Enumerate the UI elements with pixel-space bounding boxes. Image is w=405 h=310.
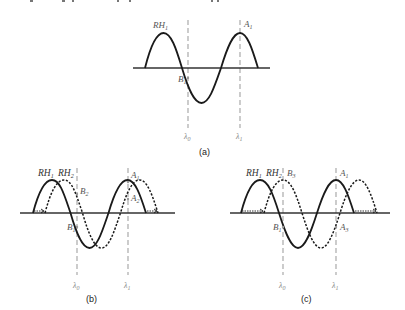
rh1-curve (241, 180, 354, 248)
figure-canvas: RH1 A1 B1 λ0 λ1 (a) RH1 RH2 B2 B1 A1 A2 (0, 0, 405, 310)
rh1-label: RH1 (152, 20, 168, 31)
rh2-label: RH2 (57, 168, 74, 179)
lambda0-label: λ0 (183, 132, 190, 142)
lambda0-label: λ0 (278, 281, 285, 291)
a3-label: A3 (339, 222, 349, 233)
a1-label: A1 (243, 19, 253, 30)
a1-label: A1 (339, 168, 349, 179)
lambda1-label: λ1 (235, 132, 242, 142)
caption-b: (b) (86, 294, 97, 304)
caption-c: (c) (301, 294, 312, 304)
b3-label: B3 (287, 168, 296, 179)
lambda1-label: λ1 (123, 281, 130, 291)
panel-a: RH1 A1 B1 λ0 λ1 (a) (133, 19, 270, 157)
rh1-label: RH1 (37, 168, 54, 179)
lambda0-label: λ0 (72, 281, 79, 291)
b1-label: B1 (273, 222, 282, 233)
lambda1-label: λ1 (331, 281, 338, 291)
rh1-label: RH1 (245, 168, 262, 179)
top-text-fragment (30, 0, 219, 2)
a1-label: A1 (130, 170, 140, 181)
b2-label: B2 (80, 186, 89, 197)
a2-label: A2 (130, 193, 140, 204)
rh2-curve (264, 180, 377, 248)
panel-c: RH1 RH2 B3 B1 A1 A3 λ0 λ1 (c) (230, 168, 390, 304)
panel-b: RH1 RH2 B2 B1 A1 A2 λ0 λ1 (b) (20, 168, 175, 304)
caption-a: (a) (199, 147, 210, 157)
rh2-label: RH2 (265, 168, 282, 179)
